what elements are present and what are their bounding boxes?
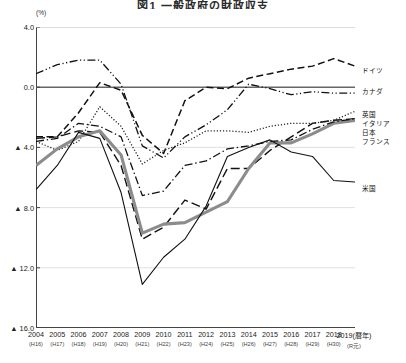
- chart-svg: [36, 27, 355, 328]
- y-axis-tick-label: ▲ 4.0: [0, 143, 34, 152]
- legend-label-uk: 英国: [362, 112, 376, 119]
- chart-container: 図1 一般政府の財政収支 (%) 4.00.0▲ 4.0▲ 8.0▲ 12.0▲…: [0, 0, 406, 363]
- y-axis-tick-label: 4.0: [0, 23, 34, 32]
- series-line-米国: [36, 132, 355, 284]
- series-line-ドイツ: [36, 59, 355, 154]
- series-line-フランス: [36, 119, 355, 196]
- legend-label-france: フランス: [362, 139, 390, 146]
- y-axis-tick-label: ▲ 8.0: [0, 204, 34, 213]
- y-axis-labels: 4.00.0▲ 4.0▲ 8.0▲ 12.0▲ 16.0: [0, 0, 34, 363]
- y-axis-unit-label: (%): [36, 9, 46, 16]
- legend-label-germany: ドイツ: [362, 68, 383, 75]
- chart-title: 図1 一般政府の財政収支: [0, 0, 406, 9]
- legend-label-canada: カナダ: [362, 89, 383, 96]
- y-axis-tick-label: 0.0: [0, 83, 34, 92]
- legend-label-usa: 米国: [362, 186, 376, 193]
- legend-label-japan: 日本: [362, 130, 376, 137]
- plot-area: [36, 27, 355, 328]
- x-axis-tick: 2019(暦年)(R元): [325, 330, 383, 350]
- y-axis-tick-label: ▲ 12.0: [0, 264, 34, 273]
- series-line-日本: [36, 120, 355, 233]
- series-line-カナダ: [36, 60, 355, 158]
- x-axis-labels: 2004(H16)2005(H17)2006(H18)2007(H19)2008…: [36, 330, 355, 363]
- x-tick-era: (R元): [325, 342, 383, 350]
- legend-label-italy: イタリア: [362, 121, 390, 128]
- x-tick-year: 2019(暦年): [325, 330, 383, 340]
